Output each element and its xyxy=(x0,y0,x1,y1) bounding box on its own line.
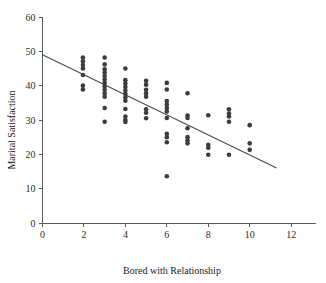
data-point xyxy=(165,81,170,86)
data-point xyxy=(227,152,232,157)
data-point xyxy=(123,66,128,71)
x-axis-ticks: 024681012 xyxy=(40,223,296,240)
data-point xyxy=(247,123,252,128)
x-axis-title: Bored with Relationship xyxy=(123,265,221,276)
y-tick-label: 40 xyxy=(26,80,36,91)
data-point xyxy=(102,94,107,99)
y-tick-label: 10 xyxy=(26,183,36,194)
data-point xyxy=(185,91,190,96)
data-point xyxy=(123,98,128,103)
data-point xyxy=(165,140,170,145)
data-point xyxy=(102,106,107,111)
x-tick-label: 2 xyxy=(81,229,86,240)
data-point-layer xyxy=(81,55,252,178)
x-tick-label: 0 xyxy=(40,229,45,240)
data-point xyxy=(81,73,86,78)
y-tick-label: 30 xyxy=(26,115,36,126)
scatter-plot-figure: Marital Satisfaction Bored with Relation… xyxy=(0,0,326,283)
data-point xyxy=(81,87,86,92)
data-point xyxy=(165,135,170,140)
data-point xyxy=(247,141,252,146)
y-axis-title: Marital Satisfaction xyxy=(6,90,17,169)
data-point xyxy=(144,116,149,121)
data-point xyxy=(227,119,232,124)
y-tick-label: 20 xyxy=(26,149,36,160)
data-point xyxy=(81,66,86,71)
data-point xyxy=(206,146,211,151)
x-tick-label: 10 xyxy=(245,229,255,240)
data-point xyxy=(102,119,107,124)
chart-canvas: Marital Satisfaction Bored with Relation… xyxy=(0,0,326,283)
data-point xyxy=(102,62,107,67)
y-tick-label: 0 xyxy=(31,218,36,229)
data-point xyxy=(144,110,149,115)
data-point xyxy=(102,55,107,60)
y-tick-label: 60 xyxy=(26,12,36,23)
data-point xyxy=(165,109,170,114)
data-point xyxy=(165,87,170,92)
data-point xyxy=(144,82,149,87)
y-axis-title-text: Marital Satisfaction xyxy=(6,90,17,169)
x-tick-label: 12 xyxy=(286,229,296,240)
data-point xyxy=(185,116,190,121)
x-tick-label: 4 xyxy=(123,229,128,240)
x-tick-label: 8 xyxy=(206,229,211,240)
data-point xyxy=(165,174,170,179)
data-point xyxy=(144,94,149,99)
regression-trend-line xyxy=(43,55,277,168)
data-point xyxy=(165,116,170,121)
data-point xyxy=(247,148,252,153)
data-point xyxy=(123,120,128,125)
data-point xyxy=(206,113,211,118)
data-point xyxy=(227,114,232,119)
data-point xyxy=(227,107,232,112)
y-axis-ticks: 0102030405060 xyxy=(26,12,43,229)
data-point xyxy=(123,107,128,112)
x-axis-title-text: Bored with Relationship xyxy=(123,265,221,276)
data-point xyxy=(206,152,211,157)
data-point xyxy=(185,126,190,131)
data-point xyxy=(185,141,190,146)
x-tick-label: 6 xyxy=(164,229,169,240)
y-tick-label: 50 xyxy=(26,46,36,57)
trend-line-segment xyxy=(43,55,277,168)
